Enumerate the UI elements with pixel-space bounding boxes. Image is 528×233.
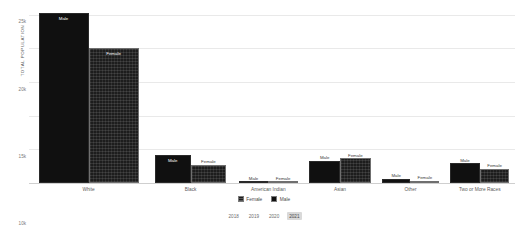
bar-wrapper: Male bbox=[382, 8, 411, 183]
bar-groups: MaleFemaleWhiteMaleFemaleBlackMaleFemale… bbox=[29, 8, 515, 183]
bar-value-label: Male bbox=[249, 176, 259, 181]
y-axis-tick-label: 20k bbox=[19, 86, 26, 91]
bar-wrapper: Male bbox=[309, 8, 340, 183]
bar-value-label: Male bbox=[460, 158, 470, 163]
bar-wrapper: Female bbox=[191, 8, 227, 183]
bar-value-label: Female bbox=[201, 159, 216, 164]
bar-group: MaleFemaleAsian bbox=[304, 8, 377, 183]
bar-value-label: Female bbox=[487, 163, 502, 168]
chart-container: TOTAL POPULATION 05k10k15k20k25k MaleFem… bbox=[0, 0, 528, 233]
bar-value-label: Male bbox=[59, 16, 69, 21]
bar-wrapper: Female bbox=[410, 8, 439, 183]
x-axis-category-label: Black bbox=[148, 187, 233, 192]
bar-other-male[interactable]: Male bbox=[382, 179, 411, 183]
bar-black-male[interactable]: Male bbox=[155, 155, 191, 183]
year-option-2019[interactable]: 2019 bbox=[246, 212, 261, 220]
bar-wrapper: Female bbox=[480, 8, 510, 183]
year-selector[interactable]: 2018201920202021 bbox=[0, 212, 528, 220]
bar-wrapper: Male bbox=[239, 8, 269, 183]
legend-item-male[interactable]: Male bbox=[271, 196, 290, 202]
gridline: 0 bbox=[29, 183, 515, 184]
x-axis-category-label: Asian bbox=[304, 187, 377, 192]
bar-american-indian-female[interactable]: Female bbox=[268, 181, 298, 183]
bar-value-label: Female bbox=[417, 175, 432, 180]
bar-white-female[interactable]: Female bbox=[89, 48, 139, 183]
y-axis-tick-label: 10k bbox=[19, 221, 26, 226]
year-option-2018[interactable]: 2018 bbox=[226, 212, 241, 220]
bar-group: MaleFemaleBlack bbox=[148, 8, 233, 183]
bar-wrapper: Female bbox=[268, 8, 298, 183]
bar-group: MaleFemaleAmerican Indian bbox=[233, 8, 303, 183]
bar-two-or-more-races-male[interactable]: Male bbox=[450, 163, 480, 183]
legend-item-female[interactable]: Female bbox=[238, 196, 263, 202]
bar-value-label: Male bbox=[391, 173, 401, 178]
bar-value-label: Female bbox=[348, 153, 363, 158]
x-axis-category-label: White bbox=[29, 187, 148, 192]
bar-wrapper: Female bbox=[89, 8, 139, 183]
chart-legend: FemaleMale bbox=[0, 196, 528, 202]
legend-label: Male bbox=[280, 197, 290, 202]
bar-group: MaleFemaleOther bbox=[376, 8, 444, 183]
bar-wrapper: Male bbox=[450, 8, 480, 183]
bar-value-label: Female bbox=[276, 176, 291, 181]
bar-value-label: Female bbox=[106, 51, 121, 56]
bar-american-indian-male[interactable]: Male bbox=[239, 181, 269, 183]
y-axis-tick-label: 15k bbox=[19, 154, 26, 159]
x-axis-category-label: American Indian bbox=[233, 187, 303, 192]
bar-two-or-more-races-female[interactable]: Female bbox=[480, 169, 510, 183]
legend-label: Female bbox=[246, 197, 262, 202]
year-option-2020[interactable]: 2020 bbox=[267, 212, 282, 220]
year-option-2021[interactable]: 2021 bbox=[287, 212, 302, 220]
bar-wrapper: Male bbox=[155, 8, 191, 183]
x-axis-category-label: Other bbox=[376, 187, 444, 192]
bar-group: MaleFemaleTwo or More Races bbox=[445, 8, 515, 183]
x-axis-category-label: Two or More Races bbox=[445, 187, 515, 192]
bar-black-female[interactable]: Female bbox=[191, 165, 227, 183]
bar-asian-female[interactable]: Female bbox=[340, 158, 371, 183]
bar-other-female[interactable]: Female bbox=[410, 181, 439, 183]
bar-value-label: Male bbox=[320, 155, 330, 160]
bar-wrapper: Male bbox=[39, 8, 89, 183]
bar-asian-male[interactable]: Male bbox=[309, 161, 340, 183]
bar-white-male[interactable]: Male bbox=[39, 13, 89, 183]
plot-area: 05k10k15k20k25k MaleFemaleWhiteMaleFemal… bbox=[29, 8, 515, 183]
legend-swatch-icon bbox=[238, 196, 244, 202]
bar-group: MaleFemaleWhite bbox=[29, 8, 148, 183]
y-axis-tick-label: 25k bbox=[19, 19, 26, 24]
bar-value-label: Male bbox=[168, 158, 178, 163]
bar-wrapper: Female bbox=[340, 8, 371, 183]
legend-swatch-icon bbox=[271, 196, 277, 202]
